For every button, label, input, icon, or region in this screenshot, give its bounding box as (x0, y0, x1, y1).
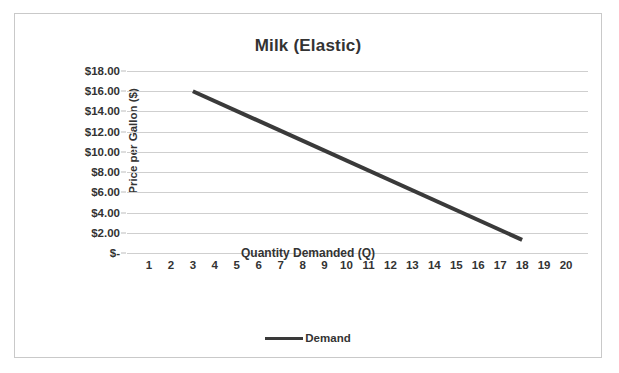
y-tick-label: $4.00 (91, 207, 120, 219)
y-tick-mark (121, 111, 126, 112)
x-tick-label: 3 (190, 259, 196, 271)
y-tick-mark (121, 232, 126, 233)
x-tick-label: 7 (277, 259, 283, 271)
chart-frame: Milk (Elastic) Price per Gallon ($) $18.… (14, 13, 602, 358)
x-tick-label: 6 (256, 259, 262, 271)
y-tick-mark (121, 212, 126, 213)
x-tick-label: 14 (428, 259, 441, 271)
y-tick-label: $6.00 (91, 186, 120, 198)
y-tick-mark (121, 131, 126, 132)
x-tick-label: 13 (406, 259, 419, 271)
y-tick-mark (121, 192, 126, 193)
legend-label-demand: Demand (305, 332, 350, 344)
x-tick-label: 17 (494, 259, 507, 271)
y-tick-mark (121, 172, 126, 173)
y-tick-label: $2.00 (91, 227, 120, 239)
y-tick-label: $8.00 (91, 166, 120, 178)
chart-title: Milk (Elastic) (15, 36, 601, 56)
y-tick-label: $14.00 (85, 105, 120, 117)
demand-line (193, 91, 522, 240)
x-tick-label: 18 (516, 259, 529, 271)
x-tick-label: 2 (168, 259, 174, 271)
y-tick-mark (121, 91, 126, 92)
chart-legend: Demand (15, 332, 601, 344)
demand-series (127, 71, 588, 253)
y-tick-mark (121, 71, 126, 72)
x-tick-label: 5 (234, 259, 240, 271)
x-axis-title: Quantity Demanded (Q) (15, 246, 601, 260)
x-tick-label: 19 (538, 259, 551, 271)
y-tick-label: $12.00 (85, 126, 120, 138)
x-tick-label: 9 (321, 259, 327, 271)
plot-area: Price per Gallon ($) $18.00$16.00$14.00$… (127, 71, 588, 253)
x-tick-label: 10 (340, 259, 353, 271)
y-tick-label: $16.00 (85, 85, 120, 97)
x-tick-label: 8 (299, 259, 305, 271)
x-tick-label: 4 (212, 259, 218, 271)
y-tick-label: $18.00 (85, 65, 120, 77)
y-tick-label: $10.00 (85, 146, 120, 158)
x-tick-label: 16 (472, 259, 485, 271)
x-tick-label: 11 (362, 259, 374, 271)
legend-swatch-demand (265, 337, 303, 340)
x-tick-label: 1 (146, 259, 152, 271)
y-tick-mark (121, 151, 126, 152)
x-tick-label: 15 (450, 259, 463, 271)
x-tick-label: 20 (560, 259, 573, 271)
x-tick-label: 12 (384, 259, 397, 271)
